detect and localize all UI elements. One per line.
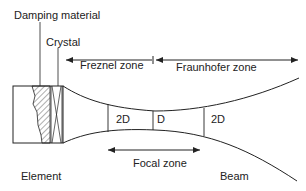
fraunhofer-zone-label: Fraunhofer zone [176,61,257,73]
focal-zone-label: Focal zone [133,157,187,169]
crystal-element [51,86,62,143]
beam-label: Beam [220,170,249,182]
crystal-label: Crystal [46,36,80,48]
width-label-right: 2D [211,113,225,125]
beam-top-curve [63,78,299,111]
beam-bottom-curve [63,130,297,181]
freznel-zone-label: Freznel zone [80,59,144,71]
damping-material-label: Damping material [14,9,100,21]
width-label-left: 2D [116,113,130,125]
damping-material-region [32,86,50,143]
element-label: Element [21,170,61,182]
width-label-focus: D [157,113,165,125]
